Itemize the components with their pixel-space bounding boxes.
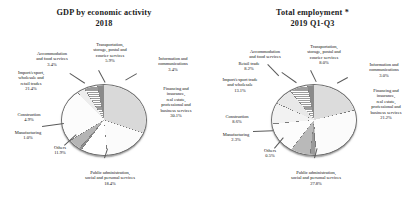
leader-information — [125, 74, 137, 81]
label-construction-pct: 4.9% — [5, 117, 53, 122]
label-accommodation: Accommodation and food services 3.4% — [20, 51, 84, 67]
label-import-export-l2: and wholesale — [227, 82, 253, 87]
label-construction-pct: 8.6% — [213, 119, 261, 124]
label-accommodation-l2: and food services — [249, 54, 281, 59]
chart-gdp-title-main: GDP by economic activity — [56, 8, 151, 17]
label-import-export-pct: 13.1% — [210, 88, 270, 93]
label-information-pct: 3.0% — [354, 73, 414, 78]
label-transportation-l2: storage, postal and — [93, 47, 127, 52]
label-information: Information and communications 3.0% — [354, 62, 414, 78]
label-public-administration-l1: Public administration, — [90, 170, 130, 175]
label-retail-trade-pct: 8.2% — [227, 66, 271, 71]
label-manufacturing-l1: Manufacturing — [223, 132, 250, 137]
label-accommodation-l1: Accommodation — [250, 49, 280, 54]
label-public-administration-l2: social and personal services — [85, 175, 135, 180]
label-import-export-l1: Import/export trade — [222, 77, 257, 82]
slice-outlines — [272, 85, 356, 155]
label-others: Others 11.9% — [40, 145, 80, 156]
label-others-l1: Others — [264, 148, 276, 153]
label-import-export-l2: wholesale and — [18, 75, 44, 80]
label-transportation-l3: courier services — [310, 55, 338, 60]
chart-gdp-title-sub: 2018 — [0, 19, 208, 30]
leader-accommodation — [70, 73, 85, 83]
label-retail-trade: Retail trade 8.2% — [227, 61, 271, 72]
label-transportation-pct: 5.9% — [76, 58, 144, 63]
label-import-export-l3: retail trades — [20, 81, 41, 86]
chart-employment-title-sub: 2019 Q1-Q3 — [208, 19, 417, 30]
label-financing-l5: business services — [371, 110, 402, 115]
leader-transportation — [311, 70, 317, 82]
label-import-export: Import/export, wholesale and retail trad… — [3, 70, 59, 92]
label-financing-l5: business services — [161, 108, 192, 113]
label-others-pct: 11.9% — [40, 150, 80, 155]
label-accommodation: Accommodation and food services — [233, 49, 297, 60]
label-accommodation-pct: 3.4% — [20, 62, 84, 67]
label-construction: Construction 8.6% — [213, 114, 261, 125]
label-manufacturing-pct: 1.0% — [3, 135, 53, 140]
label-public-administration: Public administration, social and person… — [264, 170, 368, 186]
label-manufacturing-pct: 2.3% — [211, 137, 261, 142]
label-public-administration-pct: 27.8% — [264, 181, 368, 186]
label-information-l2: communications — [158, 61, 188, 66]
label-accommodation-l1: Accommodation — [37, 51, 67, 56]
label-financing-l3: real estate, — [166, 97, 185, 102]
label-accommodation-l2: and food services — [36, 56, 68, 61]
label-financing-l2: insurance, — [377, 93, 395, 98]
label-manufacturing: Manufacturing 1.0% — [3, 130, 53, 141]
label-manufacturing: Manufacturing 2.3% — [211, 132, 261, 143]
label-retail-trade-l1: Retail trade — [239, 61, 260, 66]
label-information-pct: 3.4% — [142, 67, 204, 72]
label-financing-l1: Financing and — [373, 88, 399, 93]
label-transportation-l1: Transportation, — [96, 42, 123, 47]
leader-information — [337, 78, 348, 84]
label-others-pct: 0.5% — [250, 153, 290, 158]
label-financing-l1: Financing and — [163, 86, 189, 91]
label-transportation: Transportation, storage, postal and cour… — [76, 42, 144, 64]
leader-transportation — [99, 70, 106, 83]
chart-employment-title-main: Total employment * — [276, 8, 349, 17]
label-manufacturing-l1: Manufacturing — [15, 130, 42, 135]
label-others: Others 0.5% — [250, 148, 290, 159]
label-import-export: Import/export trade and wholesale 13.1% — [210, 77, 270, 93]
label-public-administration: Public administration, social and person… — [58, 170, 162, 186]
label-financing-pct: 30.1% — [146, 113, 206, 118]
label-financing-l4: professional and — [161, 102, 191, 107]
label-information: Information and communications 3.4% — [142, 56, 204, 72]
label-financing-l4: professional and — [371, 104, 401, 109]
label-information-l1: Information and — [369, 62, 398, 67]
label-information-l2: communications — [369, 67, 399, 72]
label-public-administration-l2: social and personal services — [291, 175, 341, 180]
chart-gdp-title: GDP by economic activity 2018 — [0, 8, 208, 29]
label-public-administration-pct: 18.4% — [58, 181, 162, 186]
chart-employment-panel: Total employment * 2019 Q1-Q3 — [208, 0, 417, 205]
pie-chart-pair: GDP by economic activity 2018 — [0, 0, 417, 205]
label-transportation-pct: 8.0% — [290, 60, 358, 65]
label-financing-pct: 21.2% — [356, 115, 416, 120]
label-financing-l2: insurance, — [167, 91, 185, 96]
label-financing: Financing and insurance, real estate, pr… — [356, 88, 416, 120]
label-information-l1: Information and — [158, 56, 187, 61]
chart-employment-title: Total employment * 2019 Q1-Q3 — [208, 8, 417, 29]
label-public-administration-l1: Public administration, — [296, 170, 336, 175]
label-financing-l3: real estate, — [376, 99, 395, 104]
leader-accommodation — [282, 72, 297, 83]
label-others-l1: Others — [54, 145, 66, 150]
label-construction-l1: Construction — [17, 112, 40, 117]
label-transportation-l2: storage, postal and — [307, 49, 341, 54]
label-financing: Financing and insurance, real estate, pr… — [146, 86, 206, 118]
label-transportation-l3: courier services — [96, 53, 124, 58]
label-construction-l1: Construction — [225, 114, 248, 119]
label-import-export-l1: Import/export, — [18, 70, 44, 75]
chart-gdp-panel: GDP by economic activity 2018 — [0, 0, 208, 205]
label-transportation-l1: Transportation, — [310, 44, 337, 49]
label-transportation: Transportation, storage, postal and cour… — [290, 44, 358, 66]
chart-employment-pie — [271, 84, 357, 156]
label-import-export-pct: 21.4% — [3, 86, 59, 91]
label-construction: Construction 4.9% — [5, 112, 53, 123]
